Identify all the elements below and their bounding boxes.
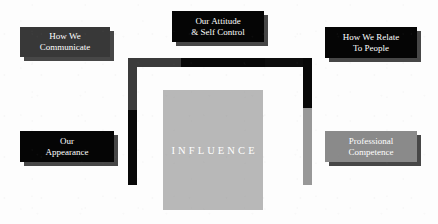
connector-top-horizontal-left bbox=[128, 58, 181, 67]
node-how-we-relate-to-people: How We Relate To People bbox=[325, 27, 417, 58]
node-how-we-communicate: How We Communicate bbox=[20, 27, 110, 57]
influence-center-label: INFLUENCE bbox=[168, 145, 257, 156]
node-label-our-appearance: Our Appearance bbox=[46, 136, 89, 158]
node-label-professional-competence: Professional Competence bbox=[349, 136, 394, 158]
node-our-attitude-self-control: Our Attitude & Self Control bbox=[172, 11, 264, 42]
connector-left-vertical-lower bbox=[128, 110, 137, 185]
node-label-how-we-relate-to-people: How We Relate To People bbox=[343, 32, 400, 54]
connector-top-horizontal-mid bbox=[181, 58, 265, 67]
node-our-appearance: Our Appearance bbox=[20, 131, 114, 162]
node-professional-competence: Professional Competence bbox=[325, 131, 417, 162]
connector-right-vertical-upper bbox=[303, 58, 312, 108]
influence-center-block: INFLUENCE bbox=[163, 90, 263, 210]
influence-diagram: INFLUENCE How We Communicate Our Attitud… bbox=[0, 0, 438, 224]
node-label-how-we-communicate: How We Communicate bbox=[40, 31, 91, 53]
node-label-our-attitude-self-control: Our Attitude & Self Control bbox=[191, 16, 245, 38]
connector-right-vertical-lower bbox=[303, 108, 312, 185]
